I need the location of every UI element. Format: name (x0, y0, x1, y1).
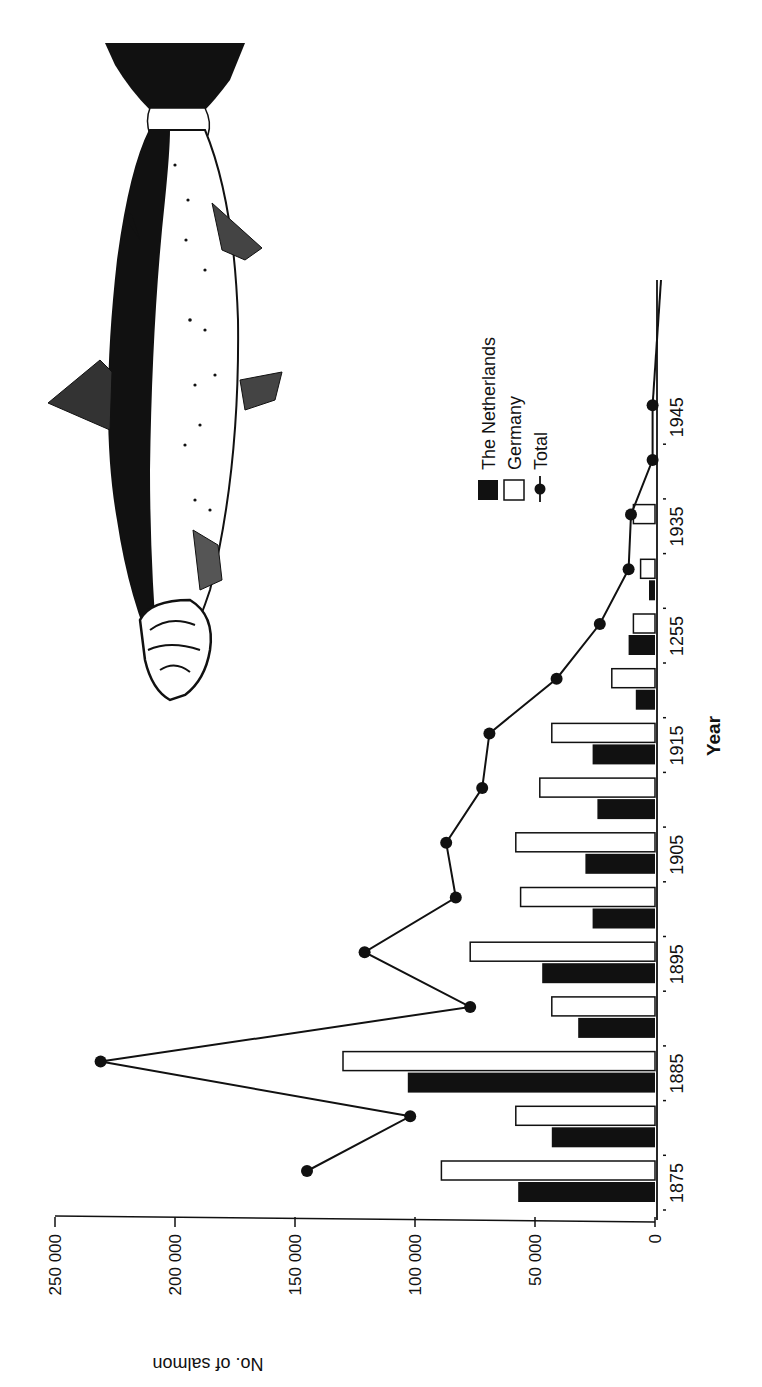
total-marker (625, 509, 637, 521)
category-axis-tick-label: 1885 (667, 1054, 687, 1094)
bar-germany (633, 614, 655, 633)
legend-label: Total (531, 432, 551, 470)
total-marker (404, 1110, 416, 1122)
bar-germany (552, 997, 655, 1016)
category-axis-tick-label: 1905 (667, 835, 687, 875)
salmon-catch-chart: 050 000100 000150 000200 000250 000No. o… (0, 0, 762, 1387)
bar-germany (441, 1161, 655, 1180)
legend-label: The Netherlands (479, 337, 499, 470)
legend-label: Germany (505, 396, 525, 470)
value-axis-tick-label: 250 000 (46, 1234, 65, 1295)
total-marker (464, 1001, 476, 1013)
total-marker (95, 1056, 107, 1068)
value-axis (55, 1216, 655, 1222)
category-axis-tick-label: 1255 (667, 616, 687, 656)
bar-germany (516, 1106, 655, 1125)
legend-marker-total (535, 484, 546, 495)
bar-germany (470, 942, 655, 961)
total-marker (359, 946, 371, 958)
value-axis-tick-label: 50 000 (526, 1234, 545, 1286)
bar-germany (552, 723, 655, 742)
bar-netherlands (578, 1018, 655, 1038)
total-marker (594, 618, 606, 630)
salmon-illustration-icon (48, 43, 282, 700)
category-axis-tick-label: 1895 (667, 944, 687, 984)
legend-swatch-netherlands (478, 480, 498, 500)
total-marker (647, 399, 659, 411)
bar-germany (641, 559, 655, 578)
bar-netherlands (408, 1073, 655, 1093)
bar-netherlands (542, 963, 655, 983)
total-marker (301, 1165, 313, 1177)
total-marker (551, 673, 563, 685)
figure: 050 000100 000150 000200 000250 000No. o… (0, 0, 762, 1387)
category-axis-tick-label: 1945 (667, 397, 687, 437)
bar-netherlands (629, 635, 655, 655)
total-marker (483, 727, 495, 739)
bar-netherlands (585, 854, 655, 874)
total-marker (440, 837, 452, 849)
total-marker (647, 454, 659, 466)
bar-netherlands (597, 799, 655, 819)
category-axis-tick-label: 1915 (667, 725, 687, 765)
value-axis-tick-label: 0 (646, 1234, 665, 1243)
bar-germany (521, 888, 655, 907)
bar-germany (343, 1052, 655, 1071)
bar-netherlands (636, 690, 655, 710)
bar-germany (540, 778, 655, 797)
bar-netherlands (593, 909, 655, 929)
category-axis-title: Year (703, 715, 724, 756)
legend-swatch-germany (504, 480, 524, 500)
bar-netherlands (649, 580, 655, 600)
bar-netherlands (593, 744, 655, 764)
total-marker (450, 892, 462, 904)
total-marker (476, 782, 488, 794)
bar-netherlands (518, 1182, 655, 1202)
bar-germany (612, 669, 655, 688)
value-axis-tick-label: 150 000 (286, 1234, 305, 1295)
value-axis-tick-label: 100 000 (406, 1234, 425, 1295)
bar-germany (516, 833, 655, 852)
category-axis-tick-label: 1875 (667, 1163, 687, 1203)
total-marker (623, 563, 635, 575)
value-axis-title: No. of salmon (152, 1354, 263, 1374)
value-axis-tick-label: 200 000 (166, 1234, 185, 1295)
bar-netherlands (552, 1127, 655, 1147)
category-axis-tick-label: 1935 (667, 507, 687, 547)
